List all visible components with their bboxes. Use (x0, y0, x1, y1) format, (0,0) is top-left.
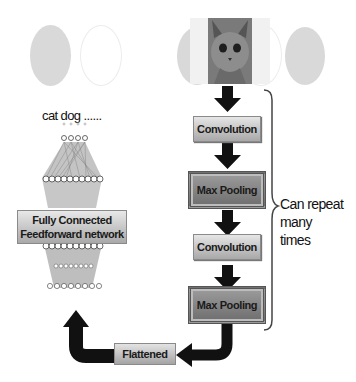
fc-label-line1: Fully Connected (32, 213, 112, 227)
fc-label-line2: Feedforward network (20, 227, 124, 241)
fully-connected-layer: Fully Connected Feedforward network (17, 210, 127, 244)
flattened-layer: Flattened (114, 343, 176, 365)
